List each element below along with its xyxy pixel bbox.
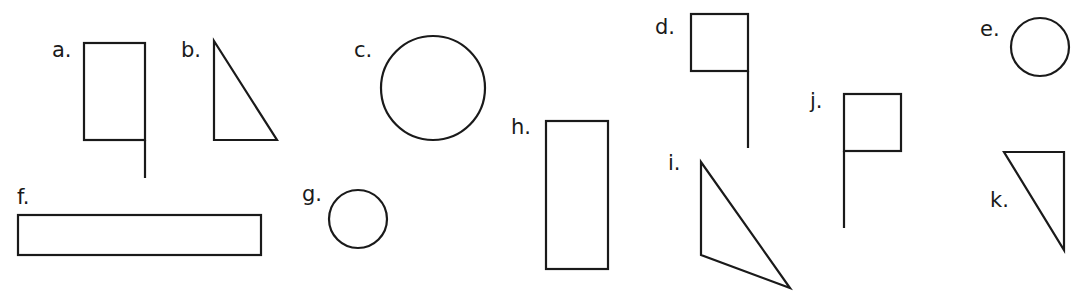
- shape-j: j.: [809, 89, 901, 228]
- label-g: g.: [302, 182, 322, 206]
- shape-e: e.: [980, 17, 1069, 76]
- label-k: k.: [990, 188, 1009, 212]
- label-c: c.: [354, 38, 372, 62]
- label-j: j.: [809, 89, 823, 113]
- shape-k: k.: [990, 152, 1064, 250]
- label-i: i.: [668, 151, 681, 175]
- label-e: e.: [980, 17, 1000, 41]
- label-d: d.: [655, 15, 675, 39]
- label-f: f.: [17, 185, 30, 209]
- label-h: h.: [511, 115, 531, 139]
- shape-h: h.: [511, 115, 608, 269]
- shape-g: g.: [302, 182, 387, 248]
- shape-i: i.: [668, 151, 790, 288]
- shape-c: c.: [354, 36, 485, 140]
- label-a: a.: [52, 38, 72, 62]
- shape-d: d.: [655, 14, 748, 148]
- shape-f: f.: [17, 185, 261, 255]
- shape-b: b.: [181, 38, 277, 140]
- shapes-figure: a. b. c. d. e. f. g. h. i.: [0, 0, 1074, 298]
- label-b: b.: [181, 38, 201, 62]
- shape-a: a.: [52, 38, 145, 178]
